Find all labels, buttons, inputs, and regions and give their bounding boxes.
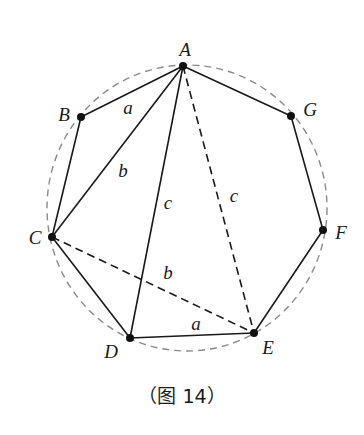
side-label-b: b (118, 160, 128, 181)
side-labels: abccba (118, 97, 239, 334)
vertex-label-B: B (58, 104, 70, 125)
vertex-point-E (250, 329, 258, 337)
vertex-point-D (126, 334, 134, 342)
circumscribed-circle (47, 65, 327, 351)
heptagon-diagram: ABCDEFG abccba （图 14） (0, 0, 364, 435)
vertex-label-F: F (334, 222, 347, 243)
side-label-b: b (163, 262, 173, 283)
vertex-point-G (287, 112, 295, 120)
vertex-label-D: D (103, 341, 118, 362)
side-label-a: a (191, 313, 201, 334)
solid-segments (52, 66, 323, 338)
vertex-points (48, 62, 327, 342)
vertex-point-A (179, 62, 187, 70)
segment-EF (254, 230, 323, 333)
segment-AE (183, 66, 254, 333)
side-label-a: a (123, 97, 133, 118)
vertex-point-F (319, 226, 327, 234)
segment-CD (52, 237, 130, 338)
figure-caption: （图 14） (138, 385, 225, 407)
vertex-label-A: A (177, 39, 191, 60)
vertex-label-E: E (261, 337, 274, 358)
vertex-point-B (77, 113, 85, 121)
segment-AD (130, 66, 183, 338)
vertex-label-C: C (29, 227, 42, 248)
segment-CE (52, 237, 254, 333)
side-label-c: c (164, 192, 173, 213)
segment-GA (183, 66, 291, 116)
vertex-label-G: G (303, 99, 317, 120)
vertex-labels: ABCDEFG (29, 39, 348, 362)
side-label-c: c (230, 185, 239, 206)
vertex-point-C (48, 233, 56, 241)
